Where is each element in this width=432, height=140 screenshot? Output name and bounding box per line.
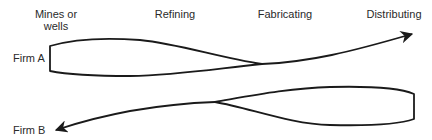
firm-b-arrow [56,102,215,130]
firm-b-path [215,87,414,125]
firm-a-arrow [262,34,412,64]
integration-diagram [0,0,432,140]
firm-a-path [50,39,262,76]
